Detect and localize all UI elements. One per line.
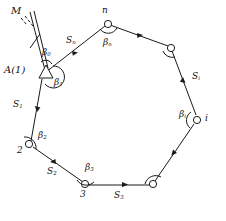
side-label-s3-sub: 3	[120, 194, 123, 200]
vertex-label-i: i	[205, 114, 208, 123]
angle-label-beta3-sub: 3	[90, 166, 93, 172]
traverse-figure: M A(1) n i 2 3 β0 β1 β2 β3 βi βn S1 S2 S…	[0, 0, 226, 221]
traverse-svg	[0, 0, 226, 221]
angle-label-beta3: β3	[85, 163, 94, 173]
vertex-label-n: n	[102, 6, 108, 15]
angle-label-beta2-sub: 2	[43, 134, 46, 140]
station-triangle-marker-icon	[39, 65, 53, 78]
side-line-i	[172, 51, 196, 115]
side-label-s2-sub: 2	[53, 170, 56, 176]
side-label-s2: S2	[47, 167, 57, 177]
side-line-n	[46, 26, 105, 72]
arrow-side-i	[180, 77, 186, 83]
angle-arc-beta-i	[186, 112, 191, 128]
angle-label-beta-i: βi	[179, 110, 186, 120]
arrow-side-1	[35, 106, 41, 112]
arrow-side-tr	[137, 33, 143, 38]
meridian-label: M	[11, 6, 21, 16]
angle-label-beta0: β0	[42, 48, 51, 58]
angle-label-beta-i-sub: i	[184, 113, 186, 119]
vertex-label-2: 2	[17, 146, 23, 155]
vertex-marker-n	[104, 20, 111, 27]
side-label-sn: Sn	[66, 36, 76, 46]
angle-label-beta1: β1	[54, 78, 63, 88]
side-label-si-sub: i	[198, 75, 200, 81]
angle-label-beta-n: βn	[103, 38, 112, 48]
angle-label-beta-n-sub: n	[108, 41, 111, 47]
meridian-dash-1	[21, 18, 27, 25]
vertex-marker-2	[25, 140, 32, 147]
side-label-s3: S3	[114, 191, 124, 201]
side-label-s1: S1	[13, 100, 23, 110]
vertex-label-3: 3	[80, 190, 86, 199]
vertex-marker-i	[193, 116, 200, 123]
side-label-si: Si	[192, 72, 200, 82]
arrow-side-n	[72, 51, 78, 56]
vertex-marker-br	[149, 180, 156, 187]
side-label-s1-sub: 1	[19, 103, 22, 109]
angle-label-beta1-sub: 1	[59, 81, 62, 87]
angle-label-beta2: β2	[38, 131, 47, 141]
station-label-a1: A(1)	[4, 65, 25, 75]
angle-arc-beta-n	[100, 28, 117, 33]
angle-label-beta0-sub: 0	[47, 51, 50, 57]
side-line-2	[33, 147, 83, 182]
arrow-side-3	[122, 182, 128, 187]
side-label-sn-sub: n	[72, 39, 75, 45]
vertex-marker-tr	[167, 44, 174, 51]
